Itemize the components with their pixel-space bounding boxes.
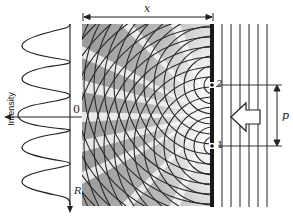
intensity-curve [18,24,70,205]
distance-label: x [144,3,150,14]
barrier [210,24,214,207]
position-axis-label: R [74,186,82,196]
separation-arrow [274,85,280,146]
diagram-canvas [0,0,293,219]
double-slit-diagram: Intensity 0 R x 2 1 p [0,0,293,219]
axis-arrow-down-icon [67,206,73,213]
origin-label: 0 [73,104,80,115]
propagation-arrow-icon [231,103,260,131]
slit-bottom-label: 1 [217,140,223,150]
slit-top-label: 2 [216,79,222,89]
separation-label: p [282,110,289,121]
intensity-axis-label: Intensity [6,92,16,126]
